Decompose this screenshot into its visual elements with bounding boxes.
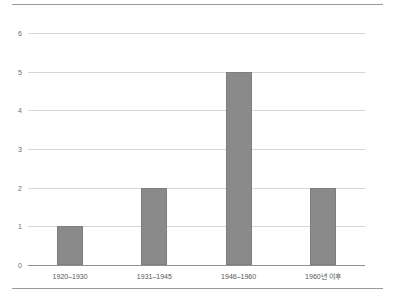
top-divider-rule <box>12 4 383 5</box>
x-axis-category-label: 1931–1945 <box>137 273 172 280</box>
x-axis-category-label: 1960년 이후 <box>305 273 341 280</box>
y-axis-tick-label: 1 <box>18 223 22 230</box>
bar <box>310 188 336 265</box>
bar <box>141 188 167 265</box>
y-axis-tick-label: 3 <box>18 146 22 153</box>
y-axis-tick-label: 5 <box>18 68 22 75</box>
y-axis-tick-label: 2 <box>18 184 22 191</box>
y-axis-tick-label: 0 <box>18 262 22 269</box>
bar <box>57 226 83 265</box>
x-axis-category-label: 1920–1930 <box>53 273 88 280</box>
plot-area: 0123456 1920–19301931–19451946–19601960년… <box>28 33 365 265</box>
x-axis-category-label: 1946–1960 <box>221 273 256 280</box>
bar-series <box>28 33 365 265</box>
chart-figure: 0123456 1920–19301931–19451946–19601960년… <box>0 0 395 303</box>
bar <box>226 72 252 265</box>
y-axis-tick-label: 6 <box>18 30 22 37</box>
y-axis-tick-label: 4 <box>18 107 22 114</box>
axis-baseline <box>28 265 365 266</box>
bottom-divider-rule <box>12 288 383 289</box>
